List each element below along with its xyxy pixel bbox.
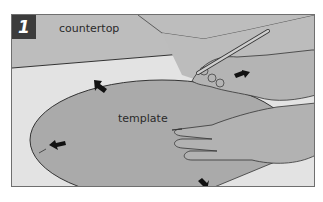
scene-illustration [12,15,315,187]
illustration-frame: 1 countertop template [11,14,315,187]
pencil-hand-knuckle [216,79,224,87]
countertop-label: countertop [59,22,119,35]
pencil-hand-knuckle [208,74,216,82]
template-label: template [118,112,168,125]
step-number-badge: 1 [12,15,36,39]
